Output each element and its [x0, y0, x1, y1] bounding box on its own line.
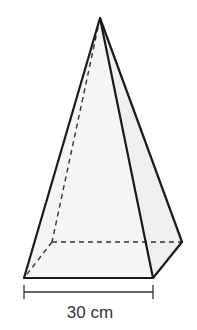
pyramid-diagram: 30 cm: [0, 0, 197, 330]
dimension-label: 30 cm: [67, 303, 113, 322]
